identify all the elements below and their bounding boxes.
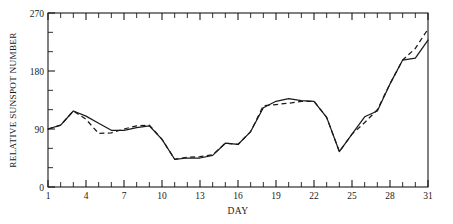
x-tick-label-31: 31 <box>423 191 433 201</box>
x-axis-top-ticks <box>48 13 428 20</box>
y-tick-label-0: 0 <box>39 183 44 193</box>
x-tick-label-16: 16 <box>233 191 243 201</box>
sunspot-line-chart-figure: 270 180 90 0 1 4 7 10 13 16 19 22 25 28 … <box>0 0 453 224</box>
x-axis-title: DAY <box>228 206 249 216</box>
x-tick-label-1: 1 <box>46 191 51 201</box>
plot-frame <box>48 13 428 187</box>
y-tick-label-180: 180 <box>30 67 45 77</box>
chart-canvas: 270 180 90 0 1 4 7 10 13 16 19 22 25 28 … <box>0 0 453 224</box>
y-tick-label-270: 270 <box>30 9 45 19</box>
x-tick-label-22: 22 <box>309 191 319 201</box>
x-tick-label-19: 19 <box>271 191 281 201</box>
series-line-predicted <box>48 29 428 159</box>
x-tick-label-25: 25 <box>347 191 357 201</box>
x-axis-bottom-ticks <box>48 180 428 187</box>
y-axis-title: RELATIVE SUNSPOT NUMBER <box>8 32 18 168</box>
y-axis-major-ticks <box>48 13 55 187</box>
x-tick-label-28: 28 <box>385 191 395 201</box>
x-tick-label-13: 13 <box>195 191 205 201</box>
y-tick-label-90: 90 <box>35 125 45 135</box>
y-axis-minor-ticks <box>48 32 53 167</box>
x-tick-label-4: 4 <box>84 191 89 201</box>
x-tick-label-10: 10 <box>157 191 167 201</box>
x-tick-label-7: 7 <box>122 191 127 201</box>
series-line-observed <box>48 40 428 159</box>
